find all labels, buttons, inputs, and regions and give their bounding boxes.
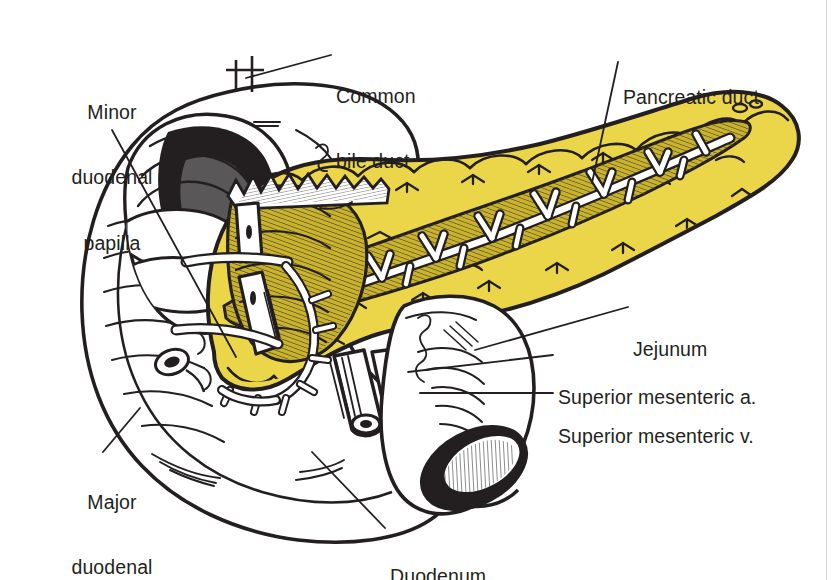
label-major-duodenal-papilla: Major duodenal papilla (46, 448, 178, 580)
label-line: bile duct (336, 151, 526, 173)
leader-common-bile-duct (246, 55, 331, 78)
label-line: Pancreatic duct (623, 87, 813, 109)
label-common-bile-duct: Common bile duct (336, 42, 526, 217)
jejunum-segment (381, 296, 540, 526)
label-line: papilla (46, 233, 178, 255)
label-minor-duodenal-papilla: Minor duodenal papilla (46, 58, 178, 298)
figure-canvas: Minor duodenal papilla Common bile duct … (0, 0, 839, 580)
label-superior-mesenteric-vein: Superior mesenteric v. (558, 382, 808, 491)
label-line: Superior mesenteric v. (558, 426, 808, 448)
cbd-lumen-dot (246, 225, 252, 239)
page-edge-line (826, 0, 827, 580)
label-line: Minor (46, 102, 178, 124)
sma-lumen (360, 420, 372, 428)
cbd-lower-dot (250, 291, 256, 305)
label-line: Major (46, 492, 178, 514)
label-line: duodenal (46, 167, 178, 189)
label-line: duodenal (46, 557, 178, 579)
label-pancreatic-duct: Pancreatic duct (623, 43, 813, 152)
label-line: Common (336, 86, 526, 108)
label-duodenum: Duodenum (390, 522, 560, 580)
minor-papilla-duct (186, 258, 288, 263)
label-line: Duodenum (390, 566, 560, 580)
